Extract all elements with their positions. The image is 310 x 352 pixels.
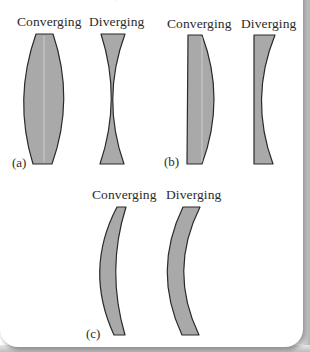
panel-a-label: (a) xyxy=(12,155,26,171)
lens-b-diverging xyxy=(254,35,275,164)
lens-b-converging xyxy=(187,35,214,164)
lens-diagram xyxy=(0,0,310,352)
panel-a-converging-label: Converging xyxy=(17,14,82,30)
lens-a-diverging xyxy=(100,34,125,164)
panel-c-converging-label: Converging xyxy=(92,187,157,203)
lens-c-converging xyxy=(100,207,126,335)
panel-c-diverging-label: Diverging xyxy=(166,187,221,203)
panel-c-label: (c) xyxy=(86,326,100,342)
panel-b-label: (b) xyxy=(164,154,179,170)
lens-c-diverging xyxy=(167,207,200,335)
panel-b-converging-label: Converging xyxy=(167,16,232,32)
panel-b-diverging-label: Diverging xyxy=(241,16,296,32)
panel-a-diverging-label: Diverging xyxy=(89,14,144,30)
